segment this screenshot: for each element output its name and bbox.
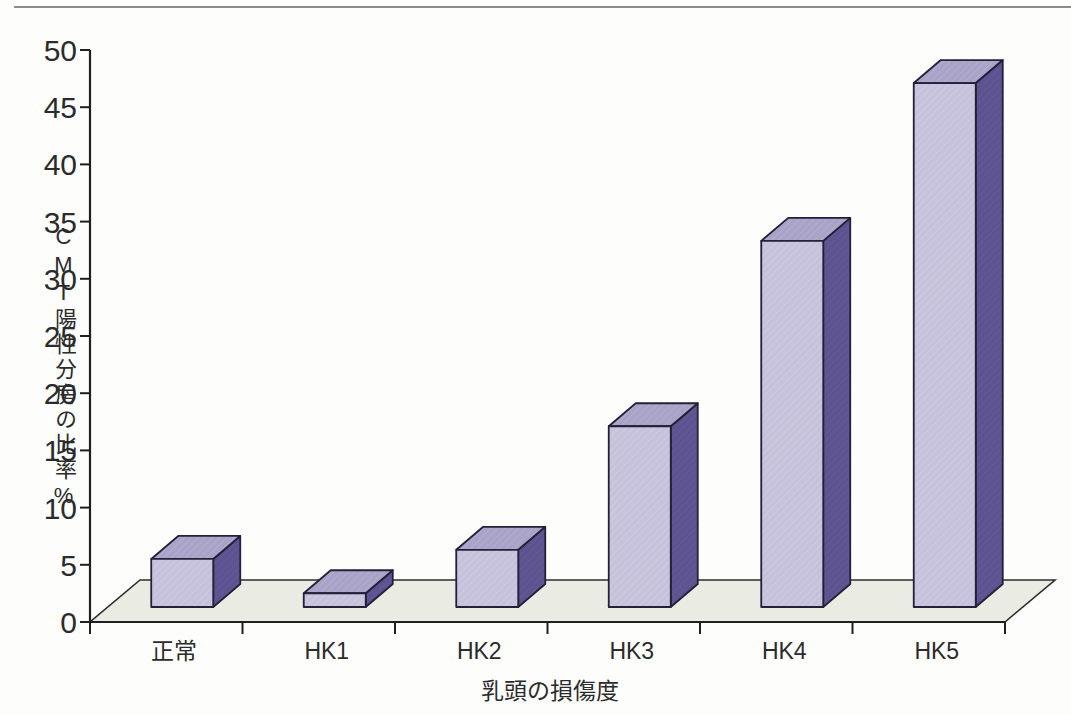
- y-tick-label-5: 5: [60, 549, 77, 582]
- bar-front-face: [304, 593, 366, 607]
- category-label-HK5: HK5: [914, 638, 959, 664]
- category-label-HK2: HK2: [457, 638, 502, 664]
- bar-side-face: [671, 403, 698, 607]
- bar-front-face: [914, 83, 976, 607]
- bar-front-face: [151, 559, 213, 607]
- bar-HK2: [456, 527, 545, 607]
- bar-side-face: [823, 218, 850, 607]
- bar-chart-3d: 05101520253035404550正常HK1HK2HK3HK4HK5: [0, 0, 1071, 715]
- category-label-正常: 正常: [151, 638, 197, 664]
- bar-HK4: [761, 218, 850, 607]
- y-tick-label-0: 0: [60, 606, 77, 639]
- category-label-HK3: HK3: [609, 638, 654, 664]
- bar-HK3: [609, 403, 698, 607]
- y-tick-label-50: 50: [44, 34, 77, 67]
- y-tick-label-40: 40: [44, 148, 77, 181]
- x-axis-title: 乳頭の損傷度: [481, 672, 619, 706]
- bar-front-face: [456, 550, 518, 607]
- bar-front-face: [609, 426, 671, 607]
- category-label-HK1: HK1: [304, 638, 349, 664]
- category-label-HK4: HK4: [762, 638, 807, 664]
- bar-HK5: [914, 60, 1003, 607]
- page: 05101520253035404550正常HK1HK2HK3HK4HK5 CM…: [0, 0, 1071, 715]
- y-axis-title: CMT陽性分房の比率%: [52, 224, 74, 511]
- bar-正常: [151, 536, 240, 607]
- y-tick-label-45: 45: [44, 91, 77, 124]
- bar-side-face: [976, 60, 1003, 607]
- bar-front-face: [761, 241, 823, 607]
